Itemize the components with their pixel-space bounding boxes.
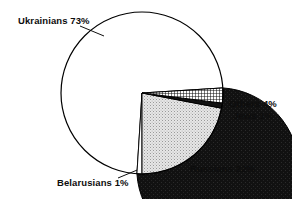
slice-label-others: Others 4% xyxy=(229,98,277,109)
slice-label-belarusians: Belarusians 1% xyxy=(57,177,129,188)
slice-label-jews: Jews 1% xyxy=(233,110,273,121)
slice-label-ukrainians: Ukrainians 73% xyxy=(18,15,90,26)
slice-label-russians: Russians 22% xyxy=(190,163,255,174)
pie-chart-figure: Ukrainians 73% Others 4% Jews 1% Russian… xyxy=(0,0,292,199)
pie-slice-belarusians[interactable] xyxy=(137,93,142,174)
leader-line-ukrainians xyxy=(80,26,104,36)
